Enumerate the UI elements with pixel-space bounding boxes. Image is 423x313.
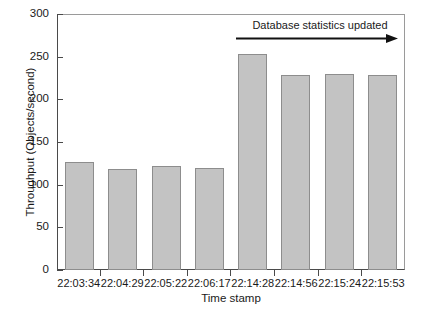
x-tick-mark-0	[100, 270, 101, 276]
x-tick-label-1: 22:04:29	[101, 277, 145, 289]
bar-7	[368, 75, 397, 271]
y-tick-label-50: 50	[36, 222, 49, 234]
bar-2	[152, 166, 181, 270]
x-tick-label-2: 22:05:22	[144, 277, 188, 289]
x-tick-label-3: 22:06:17	[188, 277, 232, 289]
bar-series	[58, 15, 404, 270]
bar-3	[195, 168, 224, 270]
x-tick-mark-6	[361, 270, 362, 276]
x-tick-label-5: 22:14:56	[275, 277, 319, 289]
y-tick-label-0: 0	[43, 264, 49, 276]
y-tick-label-300: 300	[30, 8, 49, 20]
x-tick-mark-4	[274, 270, 275, 276]
x-tick-mark-2	[187, 270, 188, 276]
bar-5	[281, 75, 310, 271]
x-tick-label-4: 22:14:28	[231, 277, 275, 289]
right-arrow-icon	[236, 34, 398, 43]
x-axis-tick-labels: 22:03:34 22:04:29 22:05:22 22:06:17 22:1…	[57, 277, 405, 289]
bar-1	[108, 169, 137, 270]
y-axis-title: Throughput (Objects/second)	[24, 27, 36, 257]
x-tick-mark-1	[143, 270, 144, 276]
x-tick-label-6: 22:15:24	[318, 277, 362, 289]
x-tick-label-0: 22:03:34	[57, 277, 101, 289]
x-tick-mark-3	[230, 270, 231, 276]
x-axis-title: Time stamp	[57, 292, 405, 304]
bar-chart-figure: 300 250 200 150 100 50 0 22:03:34 22:04:…	[0, 0, 423, 313]
bar-0	[65, 162, 94, 270]
annotation-label: Database statistics updated	[236, 19, 404, 31]
x-tick-mark-5	[318, 270, 319, 276]
bar-6	[325, 74, 354, 270]
bar-4	[238, 54, 267, 270]
y-tick-mark-0	[57, 270, 63, 271]
x-tick-label-7: 22:15:53	[362, 277, 406, 289]
